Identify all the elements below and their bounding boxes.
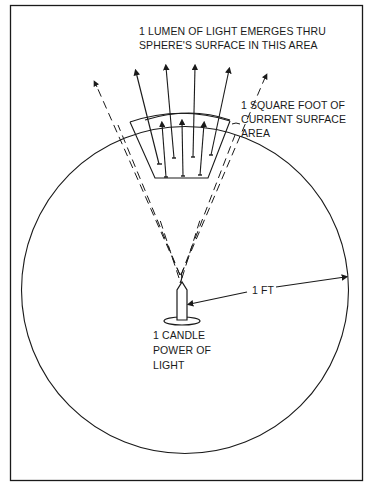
surface-patch (145, 113, 230, 120)
candle-icon (164, 273, 200, 325)
diagram-frame (11, 6, 363, 481)
lumen-label: 1 LUMEN OF LIGHT EMERGES THRU SPHERE'S S… (139, 24, 326, 52)
candle-power-label: 1 CANDLE POWER OF LIGHT (153, 328, 211, 373)
square-foot-label: 1 SQUARE FOOT OF CURRENT SURFACE AREA (241, 98, 346, 140)
candela-lumen-diagram (0, 0, 370, 487)
light-cone-dashed-lines (97, 80, 264, 278)
radius-label: 1 FT (251, 283, 275, 297)
